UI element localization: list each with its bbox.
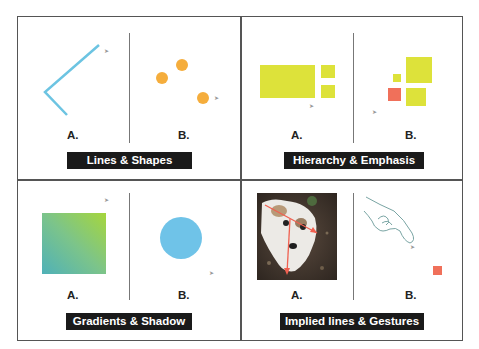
flat-circle [160,217,202,259]
panel-3-subdivider [129,193,130,300]
cursor-icon: ➤ [104,196,109,203]
panel-4-title: Implied lines & Gestures [280,313,424,330]
panel-1-label-a: A. [67,129,79,141]
medium-square [406,88,426,106]
panel-4-subdivider [353,193,354,300]
red-square-target [433,266,442,275]
pointing-hand-sketch [360,193,422,249]
tiny-square [393,74,401,82]
dog-photo [257,193,337,280]
emphasis-red-square [388,88,401,101]
panel-1-label-b: B. [178,129,190,141]
cursor-icon: ➤ [104,47,109,54]
small-square [321,85,335,98]
cursor-icon: ➤ [309,102,314,109]
cursor-icon: ➤ [410,243,415,250]
panel-2-label-a: A. [291,129,303,141]
panel-1-title: Lines & Shapes [67,152,192,169]
cursor-icon: ➤ [214,94,219,101]
large-rectangle [260,65,315,98]
panel-3-label-a: A. [67,289,79,301]
panel-3-title: Gradients & Shadow [66,313,192,330]
small-square [321,65,335,78]
cursor-icon: ➤ [372,108,377,115]
panel-2-title: Hierarchy & Emphasis [284,152,424,169]
panel-3-label-b: B. [178,289,190,301]
panel-4-label-a: A. [291,289,303,301]
large-square [406,57,432,83]
panel-2-subdivider [353,33,354,143]
panel-2-label-b: B. [405,129,417,141]
cursor-icon: ➤ [209,269,214,276]
panel-4-label-b: B. [405,289,417,301]
gradient-square [42,213,106,274]
